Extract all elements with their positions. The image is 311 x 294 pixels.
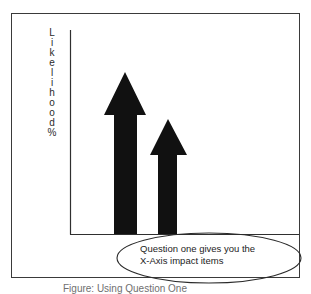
callout-line-2: X-Axis impact items [140, 255, 290, 267]
y-axis-label: L i k e l i h o o d % [44, 28, 60, 138]
callout-text: Question one gives you the X-Axis impact… [140, 243, 290, 266]
callout-line-1: Question one gives you the [140, 243, 290, 255]
figure-caption: Figure: Using Question One [63, 283, 187, 294]
bar-arrow-1 [104, 72, 146, 234]
bar-arrow-2 [150, 119, 187, 234]
y-axis-label-char: % [48, 128, 57, 138]
